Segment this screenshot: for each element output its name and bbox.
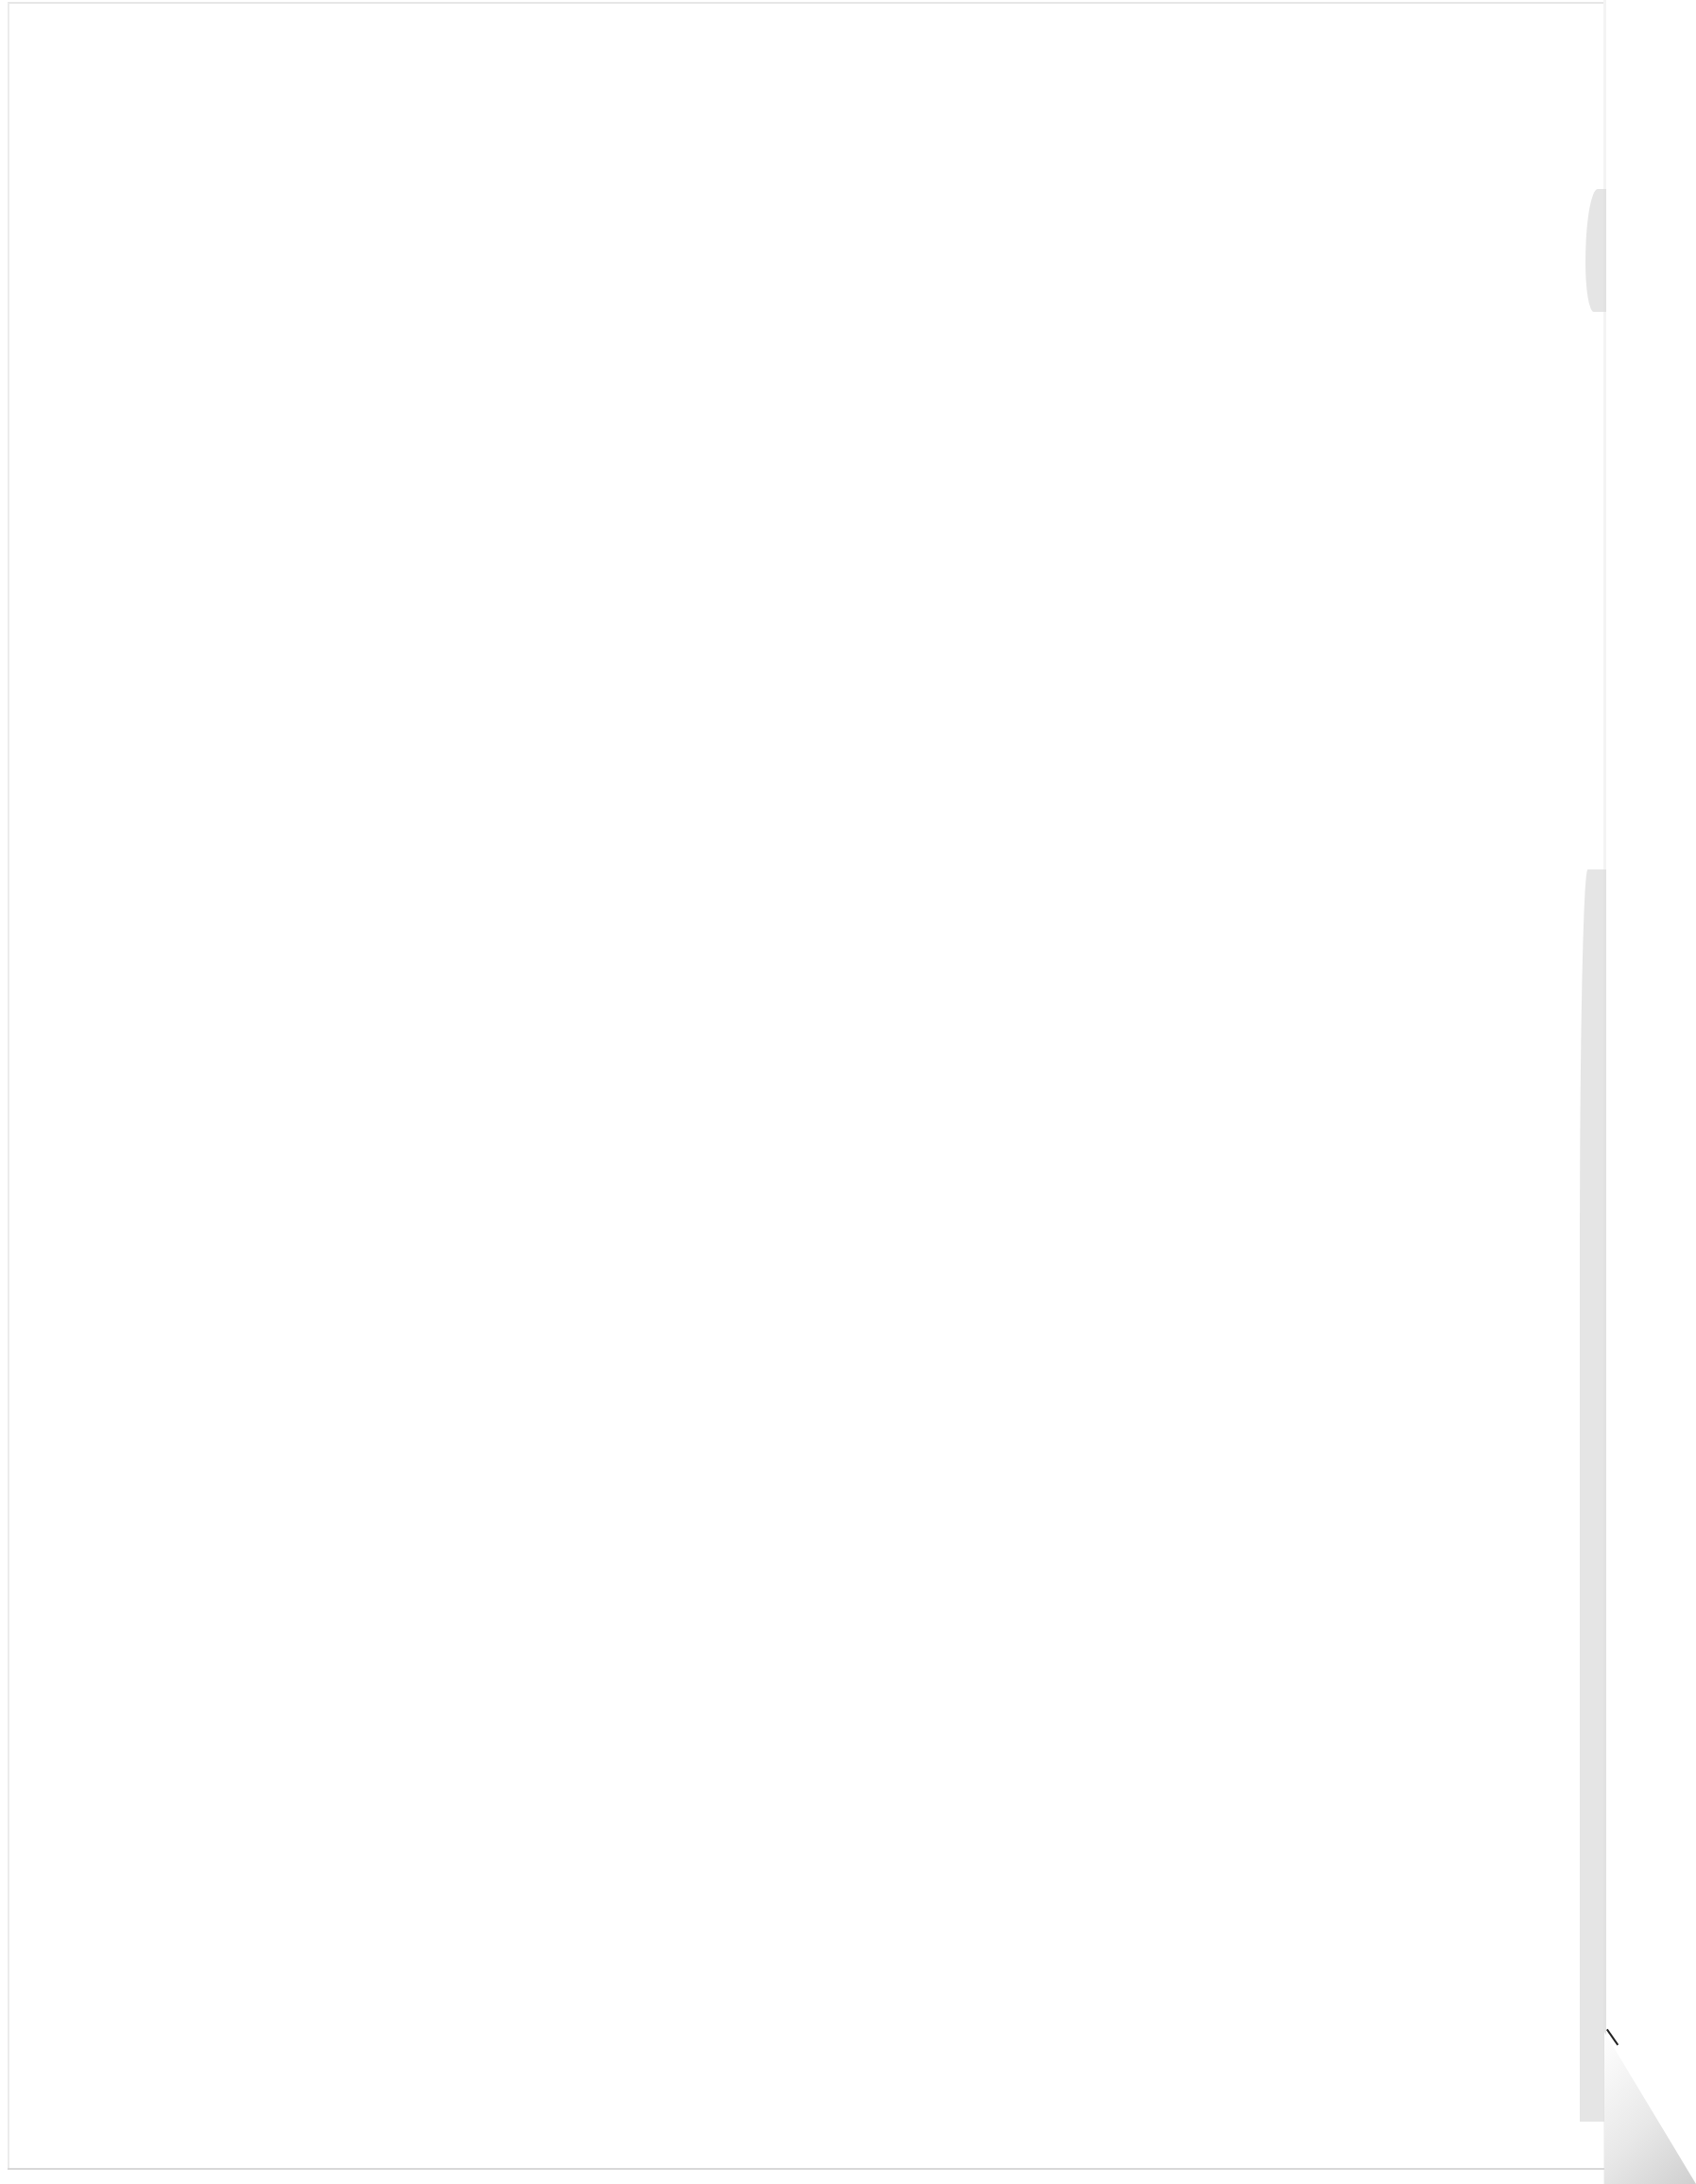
edge-shadow-top <box>1585 189 1606 312</box>
page-bottom-edge <box>8 2168 1606 2170</box>
folded-corner <box>1604 2032 1696 2184</box>
edge-shadow-long <box>1580 869 1606 2122</box>
blank-scanned-page <box>8 2 1606 2168</box>
